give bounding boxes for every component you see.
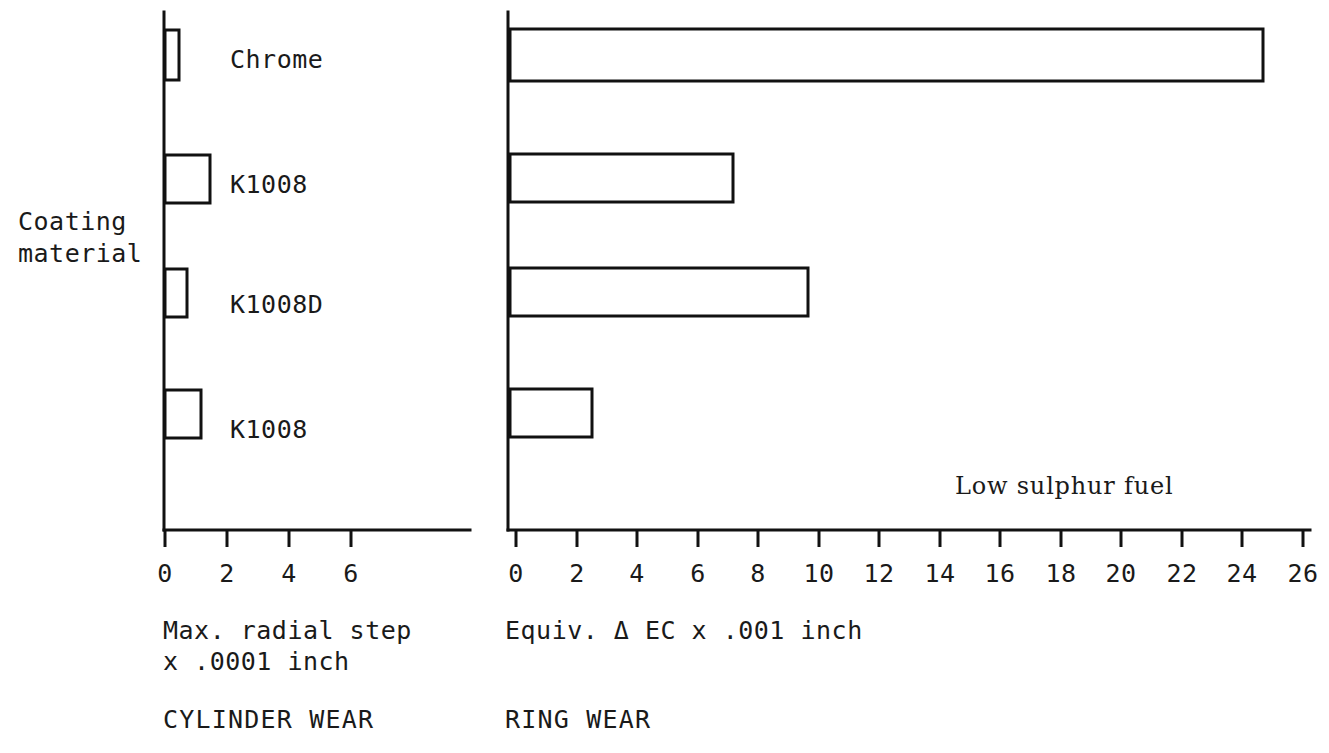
left-tick-label-0: 0	[157, 559, 173, 588]
right-x-ticks	[516, 530, 1303, 547]
right-tick-label-6: 6	[690, 559, 706, 588]
left-bar-k1008-a	[165, 155, 210, 203]
chart-figure: 0 2 4 6 Max. radial step x .0001 inch CY…	[0, 0, 1329, 753]
left-bar-k1008d	[165, 269, 187, 317]
y-axis-label-line2: material	[18, 239, 142, 268]
left-x-ticks	[165, 530, 351, 547]
right-tick-label-22: 22	[1166, 559, 1197, 588]
right-x-axis-title: Equiv. Δ EC x .001 inch	[505, 616, 863, 645]
right-tick-label-18: 18	[1045, 559, 1076, 588]
right-tick-label-14: 14	[924, 559, 955, 588]
left-tick-label-2: 2	[219, 559, 235, 588]
right-tick-label-24: 24	[1226, 559, 1257, 588]
category-label-k1008-b: K1008	[230, 415, 308, 444]
right-tick-label-16: 16	[984, 559, 1015, 588]
left-tick-label-6: 6	[343, 559, 359, 588]
right-tick-label-2: 2	[569, 559, 585, 588]
y-axis-label-line1: Coating	[18, 207, 127, 236]
left-panel-caption: CYLINDER WEAR	[163, 705, 374, 734]
right-tick-label-4: 4	[629, 559, 645, 588]
right-tick-label-8: 8	[750, 559, 766, 588]
left-bar-chrome	[165, 30, 179, 80]
right-tick-label-10: 10	[803, 559, 834, 588]
right-bar-k1008-a	[510, 154, 733, 202]
left-x-axis-title-line2: x .0001 inch	[163, 647, 350, 676]
right-tick-label-26: 26	[1287, 559, 1318, 588]
right-bar-chrome	[510, 29, 1263, 81]
left-bar-k1008-b	[165, 390, 201, 438]
left-x-axis-title-line1: Max. radial step	[163, 616, 412, 645]
y-axis-label: Coating material	[18, 207, 142, 268]
panel-cylinder-wear: 0 2 4 6 Max. radial step x .0001 inch CY…	[157, 12, 470, 734]
right-tick-label-0: 0	[508, 559, 524, 588]
category-labels: Chrome K1008 K1008D K1008	[230, 45, 323, 444]
left-tick-label-4: 4	[281, 559, 297, 588]
right-panel-caption: RING WEAR	[505, 705, 651, 734]
category-label-k1008-a: K1008	[230, 170, 308, 199]
category-label-chrome: Chrome	[230, 45, 323, 74]
low-sulphur-fuel-annotation: Low sulphur fuel	[955, 472, 1173, 500]
right-tick-label-20: 20	[1105, 559, 1136, 588]
panel-ring-wear: 0 2 4 6 8 10 12 14 16 18 20 22 24 26 Low…	[505, 12, 1319, 734]
chart-svg: 0 2 4 6 Max. radial step x .0001 inch CY…	[0, 0, 1329, 753]
right-tick-label-12: 12	[863, 559, 894, 588]
right-bar-k1008-b	[510, 389, 592, 437]
category-label-k1008d: K1008D	[230, 290, 323, 319]
right-bar-k1008d	[510, 268, 808, 316]
